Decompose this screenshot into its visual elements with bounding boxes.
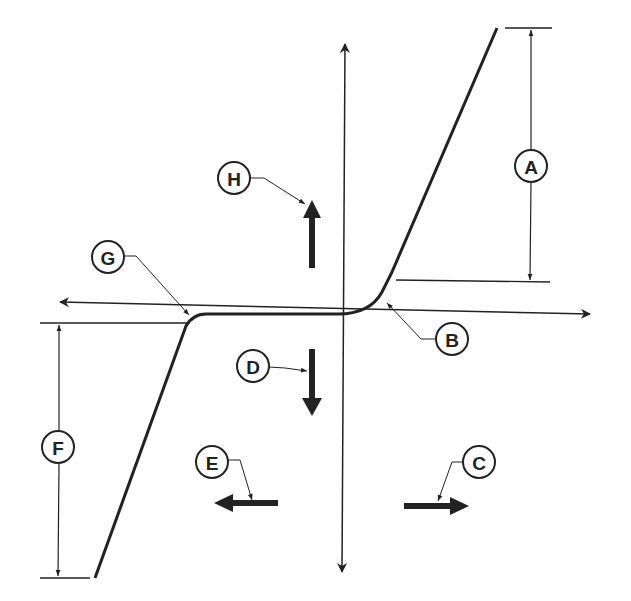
callout-D: D <box>237 350 307 382</box>
dimension-F: F <box>40 323 188 578</box>
callout-G-label: G <box>101 248 116 269</box>
transfer-curve-diagram: A F B G H D <box>0 0 631 601</box>
down-arrow-icon <box>302 349 322 416</box>
dimension-A: A <box>396 28 552 282</box>
callout-H-label: H <box>227 169 241 190</box>
right-arrow-icon <box>404 497 469 515</box>
callout-A-label: A <box>524 157 538 178</box>
callout-C-label: C <box>472 453 486 474</box>
callout-F-label: F <box>52 438 64 459</box>
horizontal-axis <box>60 302 590 314</box>
callout-H: H <box>218 162 305 204</box>
callout-D-label: D <box>246 357 260 378</box>
up-arrow-icon <box>303 200 321 268</box>
callout-C: C <box>438 446 495 501</box>
callout-B-label: B <box>445 330 459 351</box>
left-arrow-icon <box>214 494 278 512</box>
callout-F: F <box>42 431 74 463</box>
callout-E-label: E <box>206 453 219 474</box>
transfer-curve <box>95 28 497 578</box>
callout-A: A <box>515 150 547 182</box>
callout-E: E <box>196 446 252 500</box>
